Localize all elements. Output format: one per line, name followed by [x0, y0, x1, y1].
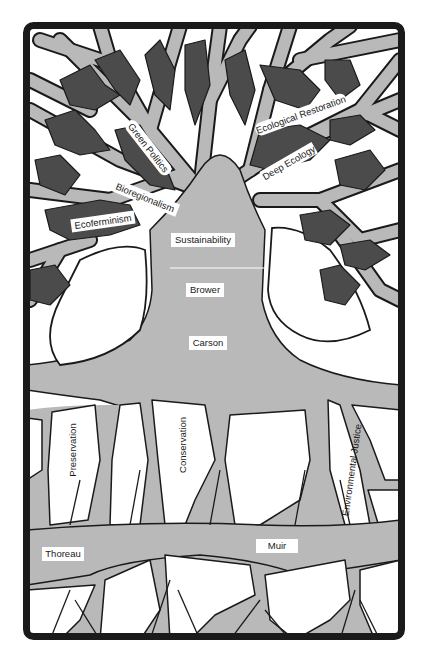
environmental-movement-tree: Green Politics Bioregionalism Ecofermini… [0, 0, 427, 663]
label-preservation: Preservation [67, 423, 78, 476]
label-sustainability: Sustainability [171, 233, 235, 247]
tree-illustration: Green Politics Bioregionalism Ecofermini… [20, 20, 410, 645]
label-thoreau: Thoreau [42, 547, 84, 561]
label-brower: Brower [186, 283, 224, 297]
label-text-preservation: Preservation [67, 423, 78, 476]
label-text-brower: Brower [190, 284, 220, 295]
label-text-thoreau: Thoreau [45, 548, 80, 559]
label-text-sustainability: Sustainability [175, 234, 231, 245]
label-text-muir: Muir [268, 540, 286, 551]
label-carson: Carson [189, 336, 227, 350]
label-conservation: Conservation [177, 417, 188, 473]
label-text-carson: Carson [193, 337, 224, 348]
label-text-conservation: Conservation [177, 417, 188, 473]
roots [27, 400, 401, 640]
label-muir: Muir [256, 539, 298, 553]
